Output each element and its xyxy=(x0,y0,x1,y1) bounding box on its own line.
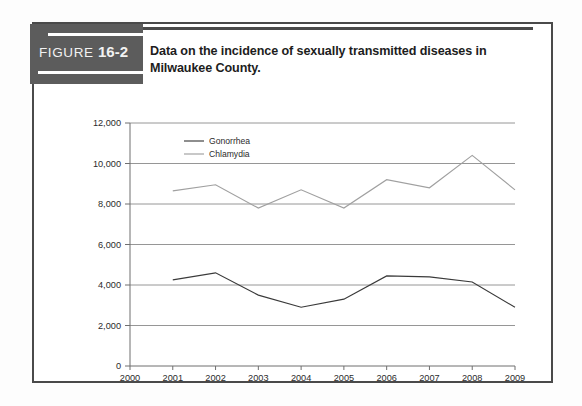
x-tick-label-2003: 2003 xyxy=(248,373,268,381)
x-tick-label-2001: 2001 xyxy=(163,373,183,381)
figure-number-badge: FIGURE 16-2 xyxy=(30,24,143,84)
header-rule xyxy=(143,27,533,30)
x-tick-label-2005: 2005 xyxy=(334,373,354,381)
y-tick-label-12000: 12,000 xyxy=(93,118,121,128)
y-tick-label-10000: 10,000 xyxy=(93,159,121,169)
badge-rule-top xyxy=(48,33,158,36)
figure-label: FIGURE 16-2 xyxy=(39,43,128,60)
figure-root: 02,0004,0006,0008,00010,00012,0002000200… xyxy=(0,0,582,406)
x-tick-label-2008: 2008 xyxy=(462,373,482,381)
x-tick-label-2004: 2004 xyxy=(291,373,311,381)
x-tick-label-2002: 2002 xyxy=(205,373,225,381)
figure-label-word: FIGURE xyxy=(39,45,94,60)
x-tick-label-2009: 2009 xyxy=(505,373,525,381)
figure-caption: Data on the incidence of sexually transm… xyxy=(150,43,520,77)
legend-label-gonorrhea: Gonorrhea xyxy=(209,136,250,146)
y-tick-label-4000: 4,000 xyxy=(98,280,121,290)
legend-label-chlamydia: Chlamydia xyxy=(209,149,250,159)
badge-rule-bottom xyxy=(38,71,150,74)
series-line-gonorrhea xyxy=(173,273,515,307)
x-tick-label-2006: 2006 xyxy=(376,373,396,381)
figure-label-number: 16-2 xyxy=(98,43,128,60)
y-tick-label-2000: 2,000 xyxy=(98,321,121,331)
y-tick-label-0: 0 xyxy=(116,361,121,371)
y-tick-label-6000: 6,000 xyxy=(98,240,121,250)
y-tick-label-8000: 8,000 xyxy=(98,199,121,209)
x-tick-label-2007: 2007 xyxy=(419,373,439,381)
x-tick-label-2000: 2000 xyxy=(120,373,140,381)
